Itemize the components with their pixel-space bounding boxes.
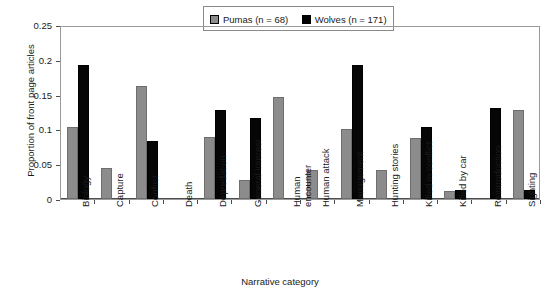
bar-pumas (513, 110, 524, 199)
bar-pumas (376, 170, 387, 199)
x-tick-label: Death (184, 182, 195, 207)
x-tick-mark (266, 200, 267, 204)
x-tick-label: Hunting stories (390, 144, 401, 207)
x-tick-mark (506, 200, 507, 204)
y-tick-label: 0.1 (22, 125, 52, 135)
x-tick-mark (94, 200, 95, 204)
x-tick-label: General interest (253, 139, 264, 207)
legend-swatch-wolves-icon (302, 15, 311, 24)
bar-pumas (444, 191, 455, 199)
legend-swatch-pumas-icon (210, 15, 219, 24)
y-tick-label: 0.25 (22, 21, 52, 31)
x-tick-label: Sighting (527, 173, 538, 207)
bar-pumas (410, 138, 421, 199)
x-tick-label: Killed in conflict (424, 142, 435, 207)
x-tick-label: Killed by car (458, 155, 469, 207)
x-tick-label: Biology (81, 176, 92, 207)
bar-pumas (273, 97, 284, 199)
bar-chart-figure: Pumas (n = 68) Wolves (n = 171) Proporti… (0, 0, 560, 298)
x-tick-label: Conflict (150, 175, 161, 207)
bar-pumas (341, 129, 352, 199)
x-tick-mark (334, 200, 335, 204)
bar-pumas (136, 86, 147, 199)
x-tick-label: Management (355, 152, 366, 207)
x-tick-label: Depredation (218, 155, 229, 207)
bar-pumas (204, 137, 215, 199)
x-tick-label: Reintroduction (493, 146, 504, 207)
y-tick-label: 0.2 (22, 56, 52, 66)
x-tick-mark (231, 200, 232, 204)
x-tick-mark (369, 200, 370, 204)
x-tick-mark (437, 200, 438, 204)
y-axis-title: Proportion of front page articles (25, 26, 36, 196)
bar-pumas (67, 127, 78, 199)
legend-entry-wolves: Wolves (n = 171) (302, 14, 387, 25)
x-axis-title: Narrative category (0, 276, 560, 287)
legend-entry-pumas: Pumas (n = 68) (210, 14, 288, 25)
bar-pumas (101, 168, 112, 199)
x-tick-mark (471, 200, 472, 204)
x-tick-mark (403, 200, 404, 204)
y-tick-mark (56, 200, 60, 201)
y-tick-label: 0.15 (22, 91, 52, 101)
x-tick-mark (163, 200, 164, 204)
x-tick-label: Human attack (321, 148, 332, 207)
x-tick-mark (540, 200, 541, 204)
y-tick-label: 0 (22, 195, 52, 205)
x-tick-mark (197, 200, 198, 204)
x-tick-label: Humanencounter (292, 165, 313, 207)
legend-label-wolves: Wolves (n = 171) (315, 14, 387, 25)
legend-label-pumas: Pumas (n = 68) (223, 14, 288, 25)
x-tick-label: Capture (115, 173, 126, 207)
y-tick-label: 0.05 (22, 160, 52, 170)
bar-pumas (239, 180, 250, 199)
x-tick-mark (129, 200, 130, 204)
